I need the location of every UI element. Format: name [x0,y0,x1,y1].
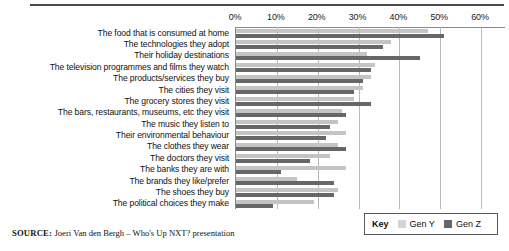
x-tick-label-3: 30% [349,12,366,23]
x-tick-label-2: 20% [308,12,325,23]
category-label: The food that is consumed at home [98,28,229,38]
bar-gen-y [236,131,346,135]
category-label: The banks they are with [140,164,229,174]
bar-gen-z [236,147,346,151]
legend-swatch-gen-y-icon [398,220,406,228]
legend-entry-gen-z: Gen Z [444,219,481,229]
bar-group [236,175,481,186]
bar-group [236,198,481,209]
category-label: Their environmental behaviour [116,130,229,140]
legend-label-gen-z: Gen Z [456,219,481,229]
bar-gen-y [236,40,391,44]
bar-group [236,61,481,72]
category-label: The doctors they visit [150,153,229,163]
x-tick-label-1: 10% [267,12,284,23]
plot-area [235,27,481,209]
category-label: The products/services they buy [113,73,229,83]
bar-gen-z [236,102,371,106]
bar-gen-z [236,204,273,208]
chart-figure: 0%10%20%30%40%50%60% The food that is co… [0,0,509,251]
bar-chart: 0%10%20%30%40%50%60% The food that is co… [0,12,509,210]
source-line: SOURCE: Joeri Van den Bergh – Who's Up N… [12,228,235,238]
bar-gen-y [236,97,354,101]
x-tick-label-5: 50% [430,12,447,23]
category-label: The television programmes and films they… [50,62,229,72]
category-label: The technologies they adopt [124,39,229,49]
bar-gen-z [236,56,420,60]
bar-gen-z [236,90,354,94]
gridline-6 [481,27,482,209]
category-label: Their holiday destinations [134,50,229,60]
bar-group [236,27,481,38]
bar-gen-y [236,52,367,56]
legend-key-label: Key [372,219,389,229]
category-label: The shoes they buy [156,187,229,197]
source-label: SOURCE: [12,228,52,238]
bar-gen-z [236,68,371,72]
chart-legend: Key Gen Y Gen Z [364,213,498,235]
category-label: The brands they like/prefer [129,176,229,186]
bar-group [236,164,481,175]
bar-gen-z [236,125,330,129]
bar-gen-y [236,120,338,124]
x-tick-label-0: 0% [229,12,242,23]
category-label: The grocery stores they visit [124,96,229,106]
bar-group [236,152,481,163]
bar-group [236,73,481,84]
bar-gen-y [236,154,330,158]
bar-gen-y [236,75,371,79]
bar-gen-z [236,45,383,49]
bar-gen-z [236,181,334,185]
bar-gen-y [236,166,346,170]
bar-group [236,107,481,118]
x-axis-tick-labels: 0%10%20%30%40%50%60% [0,12,509,26]
legend-label-gen-y: Gen Y [410,219,435,229]
bar-group [236,129,481,140]
top-rule [30,4,504,6]
x-tick-label-4: 40% [390,12,407,23]
bar-gen-z [236,34,444,38]
bar-group [236,50,481,61]
bar-gen-y [236,109,342,113]
source-text: Joeri Van den Bergh – Who's Up NXT? pres… [54,228,234,238]
category-label: The music they listen to [141,119,229,129]
bar-gen-z [236,136,326,140]
bar-gen-z [236,159,310,163]
bar-gen-y [236,188,338,192]
x-tick-label-6: 60% [471,12,488,23]
bar-group [236,186,481,197]
bar-gen-y [236,29,428,33]
bar-gen-z [236,79,363,83]
category-label: The political choices they make [113,198,229,208]
bar-gen-z [236,193,334,197]
bar-gen-z [236,113,346,117]
bar-gen-y [236,200,314,204]
legend-swatch-gen-z-icon [444,220,452,228]
legend-entry-gen-y: Gen Y [398,219,435,229]
bar-group [236,118,481,129]
bar-gen-y [236,63,375,67]
bar-group [236,38,481,49]
bar-gen-y [236,143,338,147]
bar-gen-y [236,177,297,181]
category-label: The cities they visit [159,85,230,95]
bar-gen-y [236,86,363,90]
category-label: The bars, restaurants, museums, etc they… [58,107,229,117]
bar-group [236,141,481,152]
category-label: The clothes they wear [147,141,229,151]
y-axis-category-labels: The food that is consumed at homeThe tec… [0,27,232,209]
bar-gen-z [236,170,281,174]
bar-group [236,95,481,106]
bar-group [236,84,481,95]
